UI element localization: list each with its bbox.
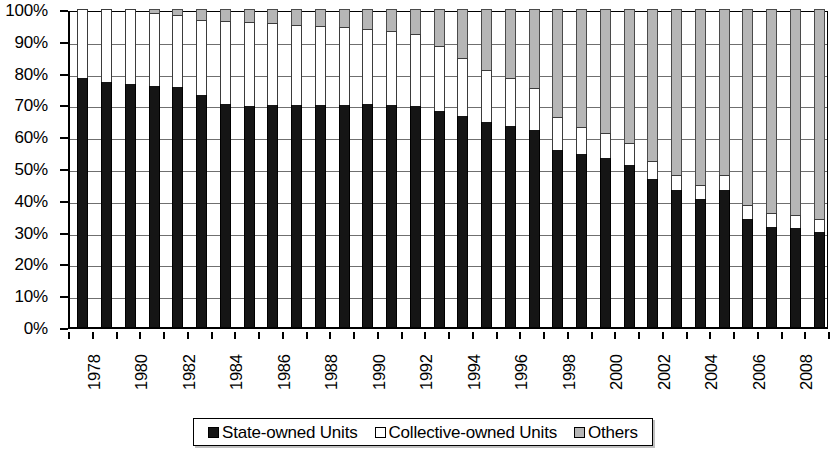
y-tick-label: 100%	[5, 2, 48, 19]
segment-state-owned	[766, 227, 777, 327]
segment-collective-owned	[647, 161, 658, 178]
segment-collective-owned	[362, 29, 373, 104]
legend-item: Others	[574, 424, 638, 441]
segment-collective-owned	[244, 22, 255, 106]
segment-state-owned	[481, 122, 492, 327]
segment-state-owned	[814, 232, 825, 327]
segment-collective-owned	[220, 21, 231, 104]
x-tick-label: 1986	[276, 354, 293, 390]
segment-collective-owned	[125, 9, 136, 84]
x-tick-label: 1992	[418, 354, 435, 390]
segment-state-owned	[244, 106, 255, 327]
y-tick-mark	[60, 74, 68, 76]
segment-others	[529, 9, 540, 88]
bar-1983	[196, 9, 207, 327]
y-tick-label: 30%	[15, 225, 48, 242]
segment-others	[790, 9, 801, 215]
segment-others	[505, 9, 516, 78]
bar-1979	[101, 9, 112, 327]
segment-collective-owned	[790, 215, 801, 228]
segment-collective-owned	[742, 205, 753, 219]
x-tick-label: 1980	[133, 354, 150, 390]
segment-others	[576, 9, 587, 127]
x-tick-mark	[377, 332, 379, 339]
x-tick-mark	[614, 332, 616, 339]
segment-others	[315, 9, 326, 26]
bar-1985	[244, 9, 255, 327]
segment-state-owned	[671, 190, 682, 327]
bar-1996	[505, 9, 516, 327]
segment-state-owned	[647, 179, 658, 328]
segment-collective-owned	[315, 26, 326, 105]
segment-collective-owned	[77, 9, 88, 78]
segment-collective-owned	[434, 46, 445, 111]
segment-collective-owned	[814, 219, 825, 232]
y-tick-mark	[60, 137, 68, 139]
segment-collective-owned	[481, 70, 492, 122]
bar-1990	[362, 9, 373, 327]
bar-1988	[315, 9, 326, 327]
bar-1989	[339, 9, 350, 327]
x-tick-mark	[282, 332, 284, 339]
chart-legend: State-owned UnitsCollective-owned UnitsO…	[193, 418, 653, 446]
segment-others	[600, 9, 611, 133]
y-tick-label: 20%	[15, 256, 48, 273]
x-tick-mark	[781, 332, 783, 339]
segment-others	[647, 9, 658, 161]
y-tick-label: 70%	[15, 97, 48, 114]
segment-state-owned	[624, 165, 635, 327]
segment-state-owned	[315, 105, 326, 327]
square-filled-gray-icon	[574, 427, 585, 438]
segment-state-owned	[742, 219, 753, 327]
square-outline-white-icon	[375, 427, 386, 438]
segment-collective-owned	[600, 133, 611, 158]
y-tick-mark	[60, 264, 68, 266]
segment-state-owned	[576, 154, 587, 327]
x-tick-mark	[519, 332, 521, 339]
bars-layer	[70, 12, 827, 327]
x-tick-mark	[211, 332, 213, 339]
x-tick-mark	[804, 332, 806, 339]
segment-state-owned	[410, 106, 421, 327]
bar-2007	[766, 9, 777, 327]
y-tick-label: 0%	[24, 320, 48, 337]
x-tick-mark	[686, 332, 688, 339]
segment-state-owned	[386, 105, 397, 327]
bar-1986	[267, 9, 278, 327]
segment-state-owned	[552, 150, 563, 327]
x-tick-mark	[353, 332, 355, 339]
x-tick-label: 2006	[751, 354, 768, 390]
y-tick-mark	[60, 169, 68, 171]
bar-2000	[600, 9, 611, 327]
bar-1991	[386, 9, 397, 327]
bar-1982	[172, 9, 183, 327]
x-tick-mark	[187, 332, 189, 339]
bar-2004	[695, 9, 706, 327]
y-tick-mark	[60, 105, 68, 107]
x-tick-mark	[306, 332, 308, 339]
segment-collective-owned	[457, 58, 468, 117]
segment-state-owned	[790, 228, 801, 327]
x-tick-mark	[401, 332, 403, 339]
x-tick-label: 2002	[656, 354, 673, 390]
bar-1992	[410, 9, 421, 327]
bar-1995	[481, 9, 492, 327]
legend-label: Collective-owned Units	[389, 424, 558, 441]
stacked-bar-chart: 0%10%20%30%40%50%60%70%80%90%100% 197819…	[0, 0, 832, 453]
segment-others	[386, 9, 397, 31]
segment-others	[196, 9, 207, 19]
legend-label: State-owned Units	[222, 424, 358, 441]
bar-1980	[125, 9, 136, 327]
segment-collective-owned	[291, 25, 302, 105]
segment-collective-owned	[267, 23, 278, 106]
bar-2002	[647, 9, 658, 327]
segment-collective-owned	[339, 27, 350, 105]
x-tick-label: 1978	[86, 354, 103, 390]
segment-collective-owned	[552, 117, 563, 149]
bar-2001	[624, 9, 635, 327]
bar-1987	[291, 9, 302, 327]
legend-item: Collective-owned Units	[375, 424, 558, 441]
x-tick-mark	[116, 332, 118, 339]
y-tick-label: 40%	[15, 193, 48, 210]
x-tick-mark	[828, 332, 830, 339]
